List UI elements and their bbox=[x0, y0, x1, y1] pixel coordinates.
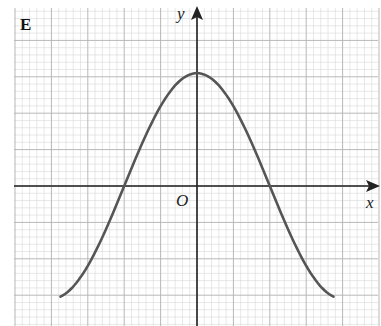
panel-label: E bbox=[20, 15, 31, 34]
y-axis-label: y bbox=[175, 4, 185, 23]
origin-label: O bbox=[176, 191, 188, 210]
graph: E y x O bbox=[0, 0, 381, 326]
axes bbox=[14, 6, 380, 326]
x-axis-label: x bbox=[365, 193, 374, 212]
